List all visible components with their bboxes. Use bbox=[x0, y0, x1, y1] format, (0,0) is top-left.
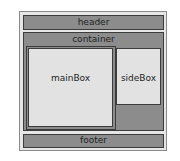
footer-label: footer bbox=[24, 135, 163, 145]
header-box: header bbox=[23, 15, 164, 30]
sidebox-label: sideBox bbox=[117, 73, 160, 83]
sidebox: sideBox bbox=[116, 48, 161, 105]
header-label: header bbox=[24, 17, 163, 27]
container-label: container bbox=[24, 34, 163, 44]
mainbox: mainBox bbox=[28, 48, 113, 127]
footer-box: footer bbox=[23, 134, 164, 148]
mainbox-label: mainBox bbox=[29, 73, 112, 83]
